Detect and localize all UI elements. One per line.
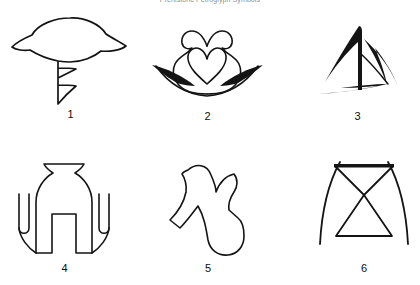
figure-cell-6: 6	[310, 158, 418, 268]
figure-label-3: 3	[305, 110, 410, 122]
figure-cell-1: 1	[8, 12, 133, 112]
figure-cell-3: 3	[305, 20, 410, 112]
figure-4-drawing	[12, 158, 117, 268]
plate-caption-text: Prehistoric Petroglyph Symbols	[0, 0, 420, 4]
figure-3-drawing	[305, 20, 410, 112]
figure-5-drawing	[158, 158, 258, 268]
figure-2-drawing	[150, 18, 265, 112]
plate-caption-clipped: Prehistoric Petroglyph Symbols	[0, 0, 420, 5]
figure-label-6: 6	[310, 262, 418, 274]
figure-cell-5: 5	[158, 158, 258, 268]
figure-cell-2: 2	[150, 18, 265, 112]
figure-label-4: 4	[12, 262, 117, 274]
petroglyph-figure-plate: Prehistoric Petroglyph Symbols 1 2	[0, 0, 420, 285]
figure-label-2: 2	[150, 110, 265, 122]
figure-6-drawing	[310, 158, 418, 268]
figure-label-5: 5	[158, 262, 258, 274]
figure-label-1: 1	[8, 108, 133, 120]
figure-cell-4: 4	[12, 158, 117, 268]
figure-1-drawing	[8, 12, 133, 112]
